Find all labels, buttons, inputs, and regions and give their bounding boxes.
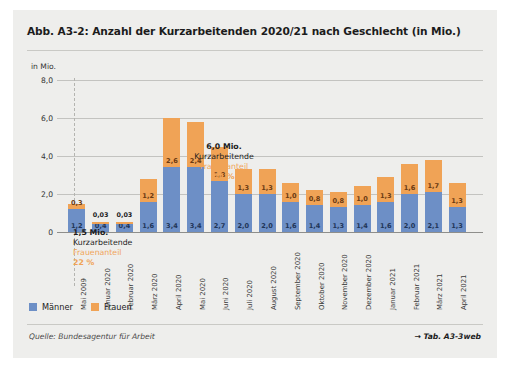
bar-segment-maenner[interactable]: 1,6 bbox=[282, 202, 299, 232]
page-title: Abb. A3-2: Anzahl der Kurzarbeitenden 20… bbox=[27, 24, 483, 38]
bar-value-label-frauen: 1,3 bbox=[377, 192, 394, 200]
footer-divider bbox=[27, 324, 483, 325]
x-axis-tick-label: April 2021 bbox=[460, 292, 468, 309]
bar-value-label-frauen: 1,3 bbox=[235, 184, 252, 192]
bar-value-label-maenner: 2,1 bbox=[425, 222, 442, 230]
callout-share-label: Frauenanteil bbox=[169, 162, 279, 172]
bar-segment-maenner[interactable]: 2,7 bbox=[211, 181, 228, 232]
bar-segment-frauen[interactable] bbox=[92, 222, 109, 225]
bar-value-label-frauen: 1,3 bbox=[449, 197, 466, 205]
x-axis-tick-label-text: Juni 2020 bbox=[222, 293, 230, 310]
figure-card: Abb. A3-2: Anzahl der Kurzarbeitenden 20… bbox=[13, 10, 497, 358]
gridline bbox=[57, 118, 483, 119]
bar-value-label-frauen: 0,8 bbox=[330, 197, 347, 205]
table-reference-link[interactable]: → Tab. A3-3web bbox=[414, 332, 481, 341]
bar-value-label-maenner: 1,3 bbox=[330, 222, 347, 230]
x-axis-tick-label-text: Mai 2020 bbox=[199, 293, 207, 310]
x-axis-tick-label: April 2020 bbox=[175, 292, 183, 309]
bar-value-label-frauen: 0,03 bbox=[88, 211, 113, 219]
legend-swatch-frauen bbox=[91, 303, 99, 311]
x-axis-tick-label: August 2020 bbox=[270, 292, 278, 309]
y-axis-tick-label: 0 bbox=[27, 228, 53, 237]
y-axis-tick-label: 6,0 bbox=[27, 114, 53, 123]
bar-value-label-frauen: 1,0 bbox=[282, 192, 299, 200]
bar-segment-maenner[interactable]: 1,3 bbox=[449, 207, 466, 232]
callout-share-value: 44 % bbox=[169, 172, 279, 182]
bar-value-label-frauen: 1,3 bbox=[259, 184, 276, 192]
bar-segment-maenner[interactable]: 2,0 bbox=[401, 194, 418, 232]
x-axis-tick-label: Oktober 2020 bbox=[318, 292, 326, 309]
y-axis-tick-label: 8,0 bbox=[27, 76, 53, 85]
bar-value-label-frauen: 0,3 bbox=[68, 199, 85, 207]
bar-value-label-maenner: 1,3 bbox=[449, 222, 466, 230]
callout-april-2020: 6,0 Mio. Kurzarbeitende Frauenanteil 44 … bbox=[169, 142, 279, 182]
x-axis-tick-label: Mai 2020 bbox=[199, 292, 207, 309]
legend-item-frauen: Frauen bbox=[91, 302, 132, 312]
x-axis-tick-label: Juni 2020 bbox=[222, 292, 230, 309]
bar-value-label-maenner: 1,6 bbox=[377, 222, 394, 230]
bar-segment-maenner[interactable]: 1,4 bbox=[354, 205, 371, 232]
bar-value-label-frauen: 1,6 bbox=[401, 184, 418, 192]
x-axis-tick-label-text: März 2020 bbox=[151, 293, 159, 310]
legend-item-maenner: Männer bbox=[29, 302, 73, 312]
source-note: Quelle: Bundesagentur für Arbeit bbox=[29, 332, 155, 341]
x-axis-tick-label: Februar 2021 bbox=[413, 292, 421, 309]
bar-value-label-maenner: 3,4 bbox=[163, 222, 180, 230]
x-axis-tick-label: September 2020 bbox=[294, 292, 302, 309]
x-axis-tick-label-text: März 2021 bbox=[436, 293, 444, 310]
x-axis-tick-label-text: Januar 2021 bbox=[389, 293, 397, 310]
legend-label-maenner: Männer bbox=[42, 302, 73, 312]
x-axis-tick-label-text: Juli 2020 bbox=[246, 293, 254, 310]
y-axis-tick-label: 2,0 bbox=[27, 190, 53, 199]
bar-value-label-maenner: 1,4 bbox=[354, 222, 371, 230]
callout-subject: Kurzarbeitende bbox=[169, 152, 279, 162]
callout-value: 6,0 Mio. bbox=[169, 142, 279, 152]
x-axis-tick-label: Januar 2021 bbox=[389, 292, 397, 309]
bar-segment-maenner[interactable]: 2,0 bbox=[235, 194, 252, 232]
bar-segment-maenner[interactable]: 2,1 bbox=[425, 192, 442, 232]
x-axis-tick-label-text: Oktober 2020 bbox=[318, 293, 326, 310]
x-axis-tick-label-text: Februar 2021 bbox=[413, 293, 421, 310]
bar-segment-maenner[interactable]: 1,4 bbox=[306, 205, 323, 232]
bar-segment-maenner[interactable]: 2,0 bbox=[259, 194, 276, 232]
bar-value-label-maenner: 2,0 bbox=[401, 222, 418, 230]
bar-value-label-maenner: 1,4 bbox=[306, 222, 323, 230]
legend-swatch-maenner bbox=[29, 303, 37, 311]
bar-value-label-maenner: 2,7 bbox=[211, 222, 228, 230]
bar-segment-maenner[interactable]: 1,6 bbox=[377, 202, 394, 232]
x-axis-tick-labels: Mai 2009Januar 2020Februar 2020März 2020… bbox=[57, 234, 483, 296]
y-axis-tick-labels: 02,04,06,08,0 bbox=[23, 80, 53, 232]
gridline bbox=[57, 80, 483, 81]
x-axis-tick-label: Juli 2020 bbox=[246, 292, 254, 309]
bar-value-label-maenner: 2,0 bbox=[259, 222, 276, 230]
bar-value-label-frauen: 0,03 bbox=[112, 211, 137, 219]
x-axis-tick-label-text: August 2020 bbox=[270, 293, 278, 310]
bar-value-label-frauen: 1,0 bbox=[354, 195, 371, 203]
x-axis-tick-label: März 2020 bbox=[151, 292, 159, 309]
bar-segment-maenner[interactable]: 1,3 bbox=[330, 207, 347, 232]
x-axis-tick-label-text: September 2020 bbox=[294, 293, 302, 310]
x-axis-tick-label: Dezember 2020 bbox=[365, 292, 373, 309]
x-axis-tick-label-text: April 2021 bbox=[460, 293, 468, 310]
x-axis-tick-label: März 2021 bbox=[436, 292, 444, 309]
bar-value-label-frauen: 1,2 bbox=[140, 192, 157, 200]
bar-segment-frauen[interactable] bbox=[116, 222, 133, 225]
y-axis-tick-label: 4,0 bbox=[27, 152, 53, 161]
x-axis-tick-label-text: November 2020 bbox=[341, 293, 349, 310]
bar-value-label-maenner: 2,0 bbox=[235, 222, 252, 230]
x-axis-tick-label: November 2020 bbox=[341, 292, 349, 309]
bar-value-label-maenner: 3,4 bbox=[187, 222, 204, 230]
legend: Männer Frauen bbox=[29, 302, 132, 312]
bar-value-label-frauen: 0,8 bbox=[306, 195, 323, 203]
bar-value-label-maenner: 1,6 bbox=[282, 222, 299, 230]
legend-label-frauen: Frauen bbox=[104, 302, 132, 312]
x-axis-tick-label-text: Dezember 2020 bbox=[365, 293, 373, 310]
y-axis-unit-label: in Mio. bbox=[31, 62, 56, 71]
plot-area: 1,20,30,40,030,40,031,61,23,42,63,42,42,… bbox=[57, 80, 483, 232]
x-axis-tick-label-text: April 2020 bbox=[175, 293, 183, 310]
bar-value-label-frauen: 1,7 bbox=[425, 182, 442, 190]
title-divider bbox=[27, 50, 483, 51]
